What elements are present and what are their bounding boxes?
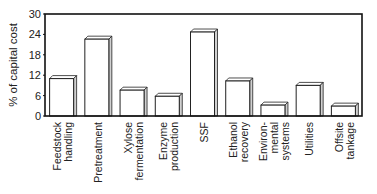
- bar: [155, 93, 182, 116]
- bar: [191, 29, 218, 116]
- y-tick-label: 6: [35, 90, 41, 102]
- bar: [296, 82, 323, 116]
- bar: [331, 103, 358, 116]
- y-tick-label: 24: [29, 28, 41, 40]
- x-category-label: Pretreatment: [92, 122, 104, 183]
- x-category-label: recovery: [238, 121, 250, 162]
- y-tick-label: 0: [35, 110, 41, 122]
- y-tick-label: 30: [29, 8, 41, 20]
- x-category-label: handling: [62, 122, 74, 162]
- y-tick-label: 12: [29, 69, 41, 81]
- x-category-label: fermentation: [133, 122, 145, 181]
- bar: [261, 102, 288, 116]
- y-tick-label: 18: [29, 49, 41, 61]
- x-category-label: tankage: [344, 122, 356, 160]
- bar: [120, 87, 147, 116]
- x-category-label: production: [168, 122, 180, 171]
- bar-chart: % of capital cost0612182430Feedstockhand…: [0, 0, 377, 194]
- x-category-label: Utilities: [303, 122, 315, 156]
- bar: [226, 78, 253, 116]
- bar: [50, 76, 77, 116]
- bar: [85, 36, 112, 116]
- x-category-label: SSF: [198, 122, 210, 142]
- x-category-label: systems: [279, 122, 291, 161]
- y-axis-label: % of capital cost: [7, 22, 19, 107]
